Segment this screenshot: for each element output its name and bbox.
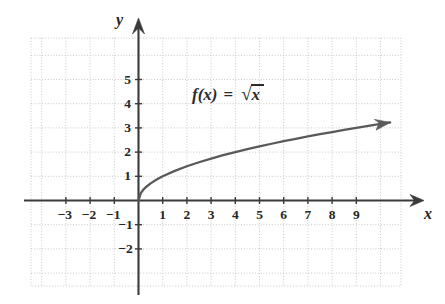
- radical-overbar: [251, 84, 264, 86]
- function-annotation: f(x)=√x: [192, 84, 260, 103]
- x-tick-label-9: 9: [353, 208, 360, 222]
- y-tick-label-2: 2: [124, 145, 131, 159]
- x-tick-label-2: 2: [184, 208, 191, 222]
- square-root-icon: √x: [240, 84, 260, 103]
- x-tick-label-3: 3: [208, 208, 215, 222]
- x-tick-label-6: 6: [280, 208, 287, 222]
- gridlines: [31, 38, 401, 286]
- x-tick-label--3: −3: [58, 208, 72, 222]
- formula-variable: x: [252, 85, 261, 104]
- plot-area: [0, 0, 445, 304]
- formula-function-name: f(x): [192, 85, 217, 104]
- x-axis-label: x: [424, 206, 432, 222]
- y-tick-label-5: 5: [124, 73, 131, 87]
- y-tick-label-3: 3: [124, 121, 131, 135]
- formula-equals: =: [223, 85, 233, 104]
- x-tick-label--2: −2: [82, 208, 96, 222]
- function-graph-figure: −3−2−1123456789−2−112345 y x f(x)=√x: [0, 0, 445, 304]
- y-tick-label--2: −2: [118, 242, 132, 256]
- x-tick-label-8: 8: [329, 208, 336, 222]
- y-tick-label-1: 1: [124, 170, 131, 184]
- function-curve: [139, 119, 391, 200]
- x-tick-label-7: 7: [305, 208, 312, 222]
- x-tick-label-1: 1: [159, 208, 166, 222]
- x-tick-label-4: 4: [232, 208, 239, 222]
- y-tick-label-4: 4: [124, 97, 131, 111]
- y-axis-label: y: [116, 12, 123, 28]
- y-tick-label--1: −1: [118, 218, 132, 232]
- x-tick-label-5: 5: [256, 208, 263, 222]
- axes: [24, 18, 424, 295]
